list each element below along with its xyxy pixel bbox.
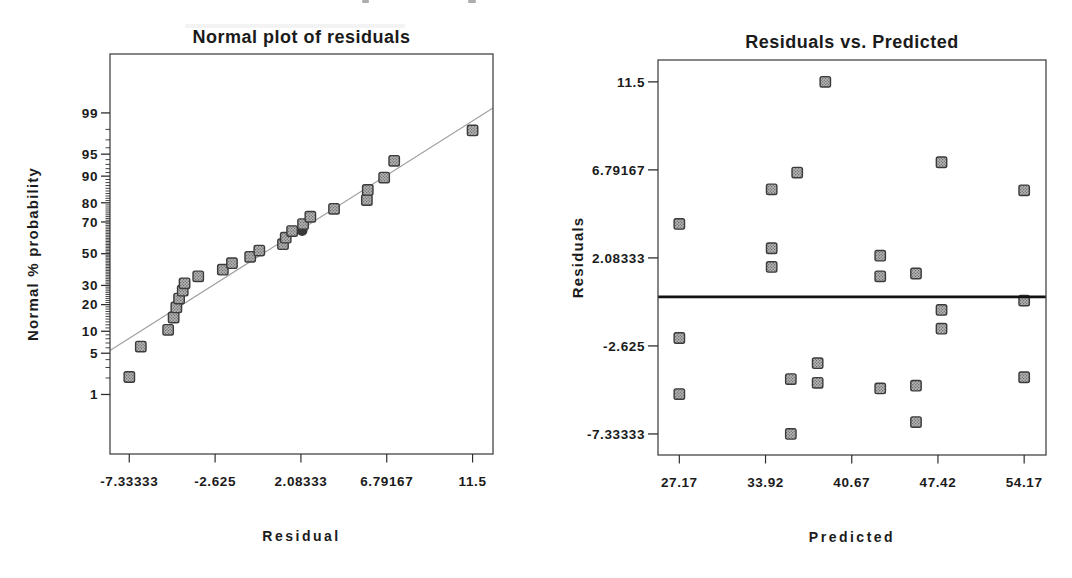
x-tick-label: -7.33333 <box>100 474 158 489</box>
y-axis-title: Residuals <box>569 217 586 299</box>
data-point-square <box>389 156 399 166</box>
data-point-square <box>674 333 684 343</box>
data-point-square <box>363 185 373 195</box>
data-point-square <box>820 77 830 87</box>
charts-canvas: -7.33333-2.6252.083336.7916711.515102030… <box>0 0 1072 578</box>
x-tick-label: -2.625 <box>194 474 236 489</box>
data-point-square <box>786 429 796 439</box>
y-tick-label: -2.625 <box>603 339 645 354</box>
data-point-square <box>766 262 776 272</box>
data-point-square <box>911 417 921 427</box>
x-tick-label: 27.17 <box>661 475 698 490</box>
scanned-figure-page: -7.33333-2.6252.083336.7916711.515102030… <box>0 0 1072 578</box>
x-axis-title: Residual <box>262 528 340 544</box>
data-point-square <box>792 167 802 177</box>
data-point-square <box>911 380 921 390</box>
normal-plot-figure: -7.33333-2.6252.083336.7916711.515102030… <box>24 27 493 544</box>
x-tick-label: 47.42 <box>920 475 957 490</box>
x-tick-label: 40.67 <box>833 475 870 490</box>
data-point-square <box>875 383 885 393</box>
y-tick-label: 80 <box>82 196 98 211</box>
x-tick-label: 11.5 <box>459 474 487 489</box>
data-point-square <box>168 312 178 322</box>
scan-artifact <box>468 0 476 3</box>
data-point-square <box>329 204 339 214</box>
data-point-square <box>1019 372 1029 382</box>
data-point-square <box>227 258 237 268</box>
data-point-square <box>936 157 946 167</box>
x-tick-label: 54.17 <box>1006 475 1043 490</box>
data-point-square <box>766 243 776 253</box>
x-axis-title: Predicted <box>809 529 895 545</box>
data-point-square <box>812 358 822 368</box>
data-point-square <box>1019 185 1029 195</box>
data-point-square <box>305 212 315 222</box>
y-tick-label: 90 <box>82 169 98 184</box>
data-point-square <box>193 271 203 281</box>
y-tick-label: 50 <box>82 246 98 261</box>
plot-frame <box>658 60 1046 455</box>
data-point-square <box>766 184 776 194</box>
normal-plot-points <box>124 125 478 382</box>
y-tick-label: 99 <box>82 106 98 121</box>
data-point-square <box>362 195 372 205</box>
y-tick-label: 30 <box>82 278 98 293</box>
scan-artifact <box>362 0 369 3</box>
data-point-square <box>136 341 146 351</box>
data-point-square <box>812 378 822 388</box>
y-tick-label: -7.33333 <box>587 427 645 442</box>
scan-artifacts <box>185 0 476 28</box>
y-tick-label: 95 <box>82 147 98 162</box>
data-point-square <box>936 323 946 333</box>
y-tick-label: 6.79167 <box>592 163 645 178</box>
data-point-square <box>124 372 134 382</box>
data-point-square <box>674 389 684 399</box>
y-tick-label: 10 <box>82 324 98 339</box>
data-point-square <box>786 374 796 384</box>
chart-title: Normal plot of residuals <box>192 27 410 47</box>
data-point-square <box>467 125 477 135</box>
y-axis-title: Normal % probability <box>24 167 41 341</box>
data-point-square <box>911 268 921 278</box>
residual-points <box>674 77 1029 439</box>
x-tick-label: 6.79167 <box>360 474 413 489</box>
y-tick-label: 70 <box>82 215 98 230</box>
data-point-square <box>179 278 189 288</box>
data-point-square <box>163 325 173 335</box>
y-tick-label: 2.08333 <box>592 251 645 266</box>
data-point-square <box>674 219 684 229</box>
y-tick-label: 5 <box>90 346 98 361</box>
data-point-square <box>254 245 264 255</box>
x-tick-label: 2.08333 <box>274 474 327 489</box>
y-tick-label: 11.5 <box>617 75 645 90</box>
chart-title: Residuals vs. Predicted <box>745 32 959 52</box>
x-tick-label: 33.92 <box>747 475 784 490</box>
data-point-square <box>379 172 389 182</box>
y-tick-label: 1 <box>90 387 98 402</box>
plot-frame <box>110 54 493 454</box>
data-point-square <box>287 226 297 236</box>
residuals-vs-predicted-figure: 27.1733.9240.6747.4254.1711.56.791672.08… <box>569 32 1046 545</box>
data-point-square <box>875 271 885 281</box>
y-tick-label: 20 <box>82 297 98 312</box>
data-point-square <box>936 305 946 315</box>
data-point-square <box>875 251 885 261</box>
